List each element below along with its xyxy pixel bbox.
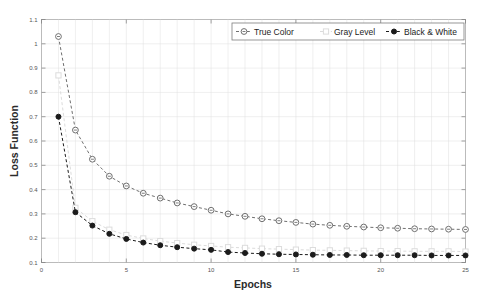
x-tick-label: 15 [293, 267, 300, 273]
y-tick-label: 1.1 [29, 17, 38, 23]
data-point [90, 223, 95, 228]
data-point [344, 252, 349, 257]
data-point [463, 253, 468, 258]
data-point [226, 250, 231, 255]
loss-function-line-chart: 0.10.20.30.40.50.60.70.80.911.1 05101520… [0, 0, 486, 299]
data-point [73, 210, 78, 215]
data-point [276, 252, 281, 257]
data-point [107, 231, 112, 236]
data-point [175, 245, 180, 250]
y-tick-label: 0.3 [29, 211, 38, 217]
y-tick-label: 0.7 [29, 114, 38, 120]
y-tick-label: 0.5 [29, 162, 38, 168]
data-point [412, 253, 417, 258]
data-point [327, 252, 332, 257]
legend-label: Black & White [404, 27, 457, 37]
data-point [243, 251, 248, 256]
data-point [225, 245, 230, 250]
x-tick-label: 10 [208, 267, 215, 273]
data-point [310, 252, 315, 257]
data-point [429, 253, 434, 258]
y-tick-label: 0.4 [29, 187, 38, 193]
legend-sample-marker [392, 29, 397, 34]
data-point [293, 252, 298, 257]
y-axis-title: Loss Function [8, 105, 20, 177]
data-point [276, 247, 281, 252]
chart-figure: 0.10.20.30.40.50.60.70.80.911.1 05101520… [0, 0, 486, 299]
data-point [242, 245, 247, 250]
y-tick-label: 1 [34, 41, 38, 47]
y-tick-label: 0.9 [29, 65, 38, 71]
data-point [293, 247, 298, 252]
data-point [141, 240, 146, 245]
data-point [124, 236, 129, 241]
data-point [192, 246, 197, 251]
data-point [259, 246, 264, 251]
data-point [209, 247, 214, 252]
x-axis-title: Epochs [234, 278, 272, 290]
x-tick-label: 25 [462, 267, 469, 273]
x-tick-label: 0 [40, 267, 44, 273]
chart-legend[interactable]: True ColorGray LevelBlack & White [232, 23, 464, 40]
data-point [361, 253, 366, 258]
data-point [378, 253, 383, 258]
y-axis-tick-labels: 0.10.20.30.40.50.60.70.80.911.1 [29, 17, 38, 266]
data-point [56, 114, 61, 119]
data-point [395, 253, 400, 258]
y-tick-label: 0.6 [29, 138, 38, 144]
x-tick-label: 5 [125, 267, 129, 273]
data-point [446, 253, 451, 258]
legend-label: True Color [254, 27, 294, 37]
x-tick-label: 20 [377, 267, 384, 273]
legend-label: Gray Level [334, 27, 375, 37]
legend-sample-marker [323, 29, 328, 34]
data-point [56, 73, 61, 78]
x-axis-tick-labels: 0510152025 [40, 267, 470, 273]
data-point [158, 243, 163, 248]
y-tick-label: 0.2 [29, 235, 38, 241]
y-tick-label: 0.8 [29, 89, 38, 95]
y-tick-label: 0.1 [29, 260, 38, 266]
data-point [259, 251, 264, 256]
